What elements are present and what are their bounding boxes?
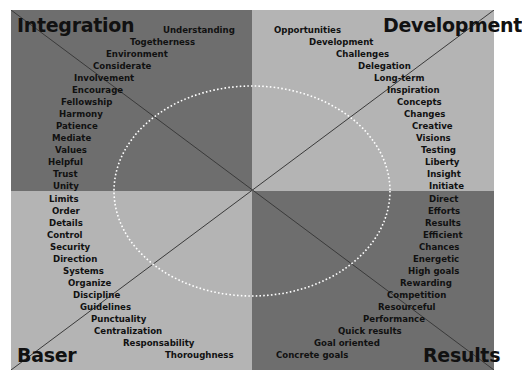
word-baser: Limits [49,195,79,204]
word-integration: Mediate [52,134,91,143]
word-development: Delegation [358,62,411,71]
word-development: Inspiration [387,86,440,95]
word-results: Performance [363,315,425,324]
word-results: Goal oriented [314,339,380,348]
word-integration: Helpful [48,158,83,167]
word-integration: Harmony [59,110,103,119]
word-development: Liberty [425,158,459,167]
title-development: Development [383,16,522,35]
title-baser: Baser [17,346,76,365]
word-baser: Centralization [94,327,162,336]
word-development: Initiate [429,182,464,191]
word-integration: Environment [106,50,168,59]
word-baser: Direction [53,255,97,264]
word-development: Changes [404,110,445,119]
word-development: Concepts [397,98,442,107]
word-baser: Guidelines [80,303,131,312]
word-results: Energetic [413,255,459,264]
word-integration: Patience [56,122,98,131]
word-integration: Unity [53,182,79,191]
word-baser: Systems [63,267,104,276]
word-integration: Trust [53,170,78,179]
word-baser: Responsability [123,339,194,348]
word-integration: Fellowship [61,98,112,107]
word-baser: Details [49,219,83,228]
word-results: Concrete goals [276,351,348,360]
word-baser: Thoroughness [165,351,234,360]
word-baser: Discipline [73,291,120,300]
word-integration: Involvement [74,74,134,83]
word-results: Results [425,219,461,228]
word-development: Testing [421,146,456,155]
word-results: Chances [419,243,459,252]
word-results: Efforts [428,207,460,216]
word-integration: Values [55,146,87,155]
word-development: Creative [412,122,453,131]
word-results: Rewarding [400,279,452,288]
word-results: Direct [429,195,458,204]
word-development: Visions [416,134,451,143]
word-baser: Punctuality [91,315,146,324]
word-integration: Encourage [72,86,123,95]
word-baser: Order [52,207,80,216]
word-results: Competition [387,291,446,300]
title-integration: Integration [17,16,134,35]
word-integration: Understanding [163,26,235,35]
word-development: Development [309,38,373,47]
quadrant-diagram: Integration Development Baser Results Un… [11,10,494,370]
word-baser: Security [50,243,90,252]
word-results: Resourceful [378,303,436,312]
title-results: Results [423,346,500,365]
word-baser: Control [47,231,83,240]
word-integration: Considerate [93,62,151,71]
word-baser: Organize [68,279,111,288]
word-results: Efficient [423,231,463,240]
word-integration: Togetherness [130,38,195,47]
word-results: Quick results [338,327,402,336]
word-development: Long-term [374,74,424,83]
word-development: Opportunities [274,26,341,35]
word-development: Insight [427,170,461,179]
word-development: Challenges [336,50,389,59]
word-results: High goals [408,267,459,276]
